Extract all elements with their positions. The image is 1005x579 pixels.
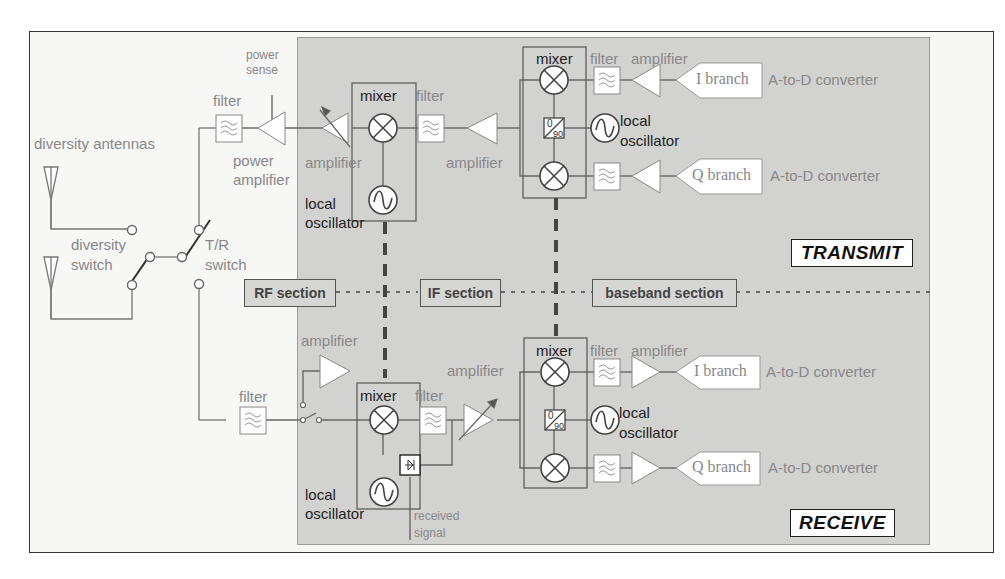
rx-q-converter-label: A-to-D converter xyxy=(768,459,878,476)
tx-q-branch-label: Q branch xyxy=(692,166,751,184)
tx-rf-filter-label: filter xyxy=(213,92,241,109)
rx-rf-filter-label: filter xyxy=(239,388,267,405)
tx-q-mixer-icon xyxy=(540,162,568,190)
rx-q-branch-label: Q branch xyxy=(692,458,751,476)
tx-if-mixer-icon xyxy=(369,114,397,142)
rx-if-amplifier-label: amplifier xyxy=(447,362,504,379)
rx-q-filter-icon xyxy=(594,455,620,482)
rx-i-mixer-icon xyxy=(541,358,569,386)
diversity-switch-label-l2: switch xyxy=(71,256,113,273)
tx-if-oscillator-label-l1: local xyxy=(305,195,336,212)
tx-if-filter-label: filter xyxy=(416,87,444,104)
tx-rf-amplifier-label: amplifier xyxy=(305,154,362,171)
rx-if-filter-icon xyxy=(420,407,446,434)
rx-if-mixer-icon xyxy=(370,406,398,434)
rx-i-converter-label: A-to-D converter xyxy=(766,363,876,380)
received-signal-label-l2: signal xyxy=(414,526,445,540)
tx-i-converter-label: A-to-D converter xyxy=(768,71,878,88)
detector-icon xyxy=(400,455,420,475)
rf-section-tag: RF section xyxy=(244,279,336,307)
tx-bb-filter-label: filter xyxy=(590,50,618,67)
rx-rf-amplifier-label: amplifier xyxy=(301,332,358,349)
rx-bb-mixer-label: mixer xyxy=(536,342,573,359)
tx-bb-amplifier-label: amplifier xyxy=(631,50,688,67)
receive-switch-contacts xyxy=(301,403,322,423)
rx-i-branch-label: I branch xyxy=(694,362,747,380)
power-sense-label-l1: power xyxy=(246,48,279,62)
tx-bb-mixer-label: mixer xyxy=(536,50,573,67)
rx-rf-filter-icon xyxy=(240,407,266,434)
tx-if-filter-icon xyxy=(418,115,444,142)
rx-bb-oscillator-label-l1: local xyxy=(619,404,650,421)
if-section-tag: IF section xyxy=(420,279,501,307)
rx-if-mixer-label: mixer xyxy=(360,387,397,404)
diversity-antennas-label: diversity antennas xyxy=(34,135,155,152)
tr-switch-label-l1: T/R xyxy=(205,236,229,253)
tx-i-branch-label: I branch xyxy=(696,70,749,88)
tx-if-oscillator-icon xyxy=(369,186,397,214)
tx-if-mixer-label: mixer xyxy=(360,87,397,104)
received-signal-label-l1: received xyxy=(414,509,459,523)
power-amplifier-label-l2: amplifier xyxy=(233,171,290,188)
tx-i-mixer-icon xyxy=(540,66,568,94)
tr-switch-label-l2: switch xyxy=(205,256,247,273)
power-sense-label-l2: sense xyxy=(246,63,278,77)
rx-if-oscillator-icon xyxy=(370,478,398,506)
rx-q-mixer-icon xyxy=(541,454,569,482)
baseband-section-tag: baseband section xyxy=(592,279,737,307)
tx-q-filter-icon xyxy=(594,163,620,190)
rx-phase-shifter-icon xyxy=(545,410,565,431)
rx-if-filter-label: filter xyxy=(415,387,443,404)
diversity-switch-label-l1: diversity xyxy=(71,236,126,253)
rx-bb-oscillator-label-l2: oscillator xyxy=(619,424,678,441)
rx-bb-oscillator-icon xyxy=(591,406,619,434)
transmit-mode-badge: TRANSMIT xyxy=(791,239,913,267)
rx-bb-filter-label: filter xyxy=(590,342,618,359)
tx-bb-oscillator-label-l1: local xyxy=(620,112,651,129)
tx-phase-shifter-icon xyxy=(544,118,564,139)
tx-if-oscillator-label-l2: oscillator xyxy=(305,214,364,231)
rx-if-oscillator-label-l1: local xyxy=(305,486,336,503)
rx-if-oscillator-label-l2: oscillator xyxy=(305,505,364,522)
tx-bb-oscillator-label-l2: oscillator xyxy=(620,132,679,149)
receive-mode-badge: RECEIVE xyxy=(790,509,895,537)
tx-bb-oscillator-icon xyxy=(591,114,619,142)
rx-bb-amplifier-label: amplifier xyxy=(631,342,688,359)
power-amplifier-label-l1: power xyxy=(233,152,274,169)
tx-if-amplifier-label: amplifier xyxy=(446,154,503,171)
rx-i-filter-icon xyxy=(594,359,620,386)
tx-i-filter-icon xyxy=(594,67,620,94)
tx-q-converter-label: A-to-D converter xyxy=(770,167,880,184)
tx-rf-filter-icon xyxy=(216,115,242,142)
